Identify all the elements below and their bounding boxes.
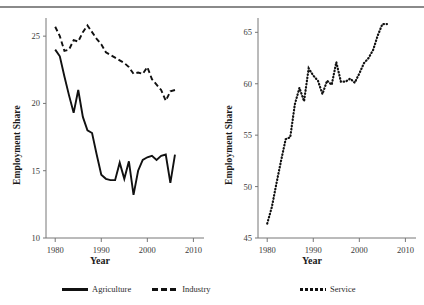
- svg-text:60: 60: [244, 79, 253, 89]
- svg-text:15: 15: [32, 166, 41, 176]
- svg-text:1990: 1990: [93, 245, 110, 255]
- legend-label: Industry: [182, 284, 210, 294]
- legend-item-agriculture: Agriculture: [62, 284, 131, 294]
- legend-item-service: Service: [300, 284, 356, 294]
- legend-swatch-dashed: [152, 288, 178, 291]
- legend-swatch-solid: [62, 288, 88, 291]
- svg-text:1980: 1980: [47, 245, 64, 255]
- svg-text:1980: 1980: [259, 245, 276, 255]
- plot-area-left: 101520251980199020002010: [0, 10, 212, 260]
- svg-text:65: 65: [244, 27, 253, 37]
- svg-text:1990: 1990: [305, 245, 322, 255]
- chart-panel-left: Employment Share 10152025198019902000201…: [0, 10, 212, 260]
- chart-panel-right: Employment Share 45505560651980199020002…: [212, 10, 424, 260]
- svg-text:2010: 2010: [185, 245, 202, 255]
- top-horizontal-rule: [0, 6, 424, 8]
- legend-right: Service: [300, 284, 372, 294]
- svg-text:2000: 2000: [139, 245, 156, 255]
- svg-text:25: 25: [32, 31, 41, 41]
- legend-item-industry: Industry: [152, 284, 210, 294]
- svg-text:2010: 2010: [397, 245, 414, 255]
- x-axis-label-left: Year: [90, 255, 110, 266]
- plot-area-right: 45505560651980199020002010: [212, 10, 424, 260]
- svg-text:45: 45: [244, 233, 253, 243]
- svg-text:20: 20: [32, 98, 41, 108]
- legend-left: AgricultureIndustry: [62, 284, 227, 294]
- svg-text:50: 50: [244, 182, 253, 192]
- legend-label: Service: [330, 284, 356, 294]
- legend-label: Agriculture: [92, 284, 131, 294]
- svg-text:10: 10: [32, 233, 41, 243]
- svg-text:55: 55: [244, 130, 253, 140]
- x-axis-label-right: Year: [302, 255, 322, 266]
- svg-text:2000: 2000: [351, 245, 368, 255]
- legend-swatch-dotted: [300, 288, 326, 291]
